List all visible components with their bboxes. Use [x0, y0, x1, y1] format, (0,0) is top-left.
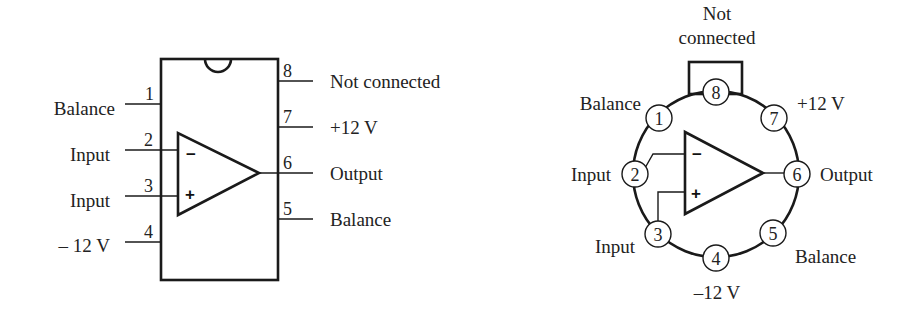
dip-pin7-number: 7 — [283, 107, 292, 127]
dip-notch-icon — [205, 59, 231, 72]
can-pin8: 8 — [703, 79, 729, 105]
can-pin6-label: Output — [820, 164, 874, 185]
svg-text:2: 2 — [631, 165, 640, 185]
dip-pin7-label: +12 V — [330, 117, 378, 138]
can-pin8-label-line2: connected — [678, 27, 756, 48]
dip-pin1-number: 1 — [145, 84, 154, 104]
can-pin1: 1 — [646, 105, 672, 131]
can-pin5-label: Balance — [795, 246, 856, 267]
dip-pin3-number: 3 — [144, 176, 153, 196]
can-pin6: 6 — [784, 161, 810, 187]
can-pin7: 7 — [761, 105, 787, 131]
can-minus-sign: − — [692, 145, 702, 164]
can-pin3-label: Input — [595, 236, 636, 257]
svg-text:6: 6 — [793, 165, 802, 185]
can-pin2: 2 — [622, 161, 648, 187]
dip-pin3-label: Input — [70, 190, 111, 211]
svg-text:1: 1 — [655, 109, 664, 129]
can-pin2-wire — [645, 154, 685, 168]
can-pin3: 3 — [645, 221, 671, 247]
dip-pin5-label: Balance — [330, 209, 391, 230]
dip-pin8-number: 8 — [283, 61, 292, 81]
can-pin5: 5 — [760, 220, 786, 246]
can-pin2-label: Input — [571, 164, 612, 185]
dip-pin2-label: Input — [70, 144, 111, 165]
can-pin4: 4 — [703, 245, 729, 271]
dip-pin2-number: 2 — [144, 130, 153, 150]
dip-pin6-number: 6 — [283, 153, 292, 173]
can-pin8-label-line1: Not — [703, 3, 732, 24]
can-pin7-label: +12 V — [797, 93, 845, 114]
svg-text:5: 5 — [769, 224, 778, 244]
can-pin4-label: –12 V — [693, 282, 741, 303]
dip-minus-sign: − — [186, 145, 196, 164]
dip-pin1-label: Balance — [54, 98, 115, 119]
can-plus-sign: + — [691, 184, 701, 203]
svg-text:3: 3 — [654, 225, 663, 245]
can-pin3-wire — [658, 192, 685, 222]
svg-text:7: 7 — [770, 109, 779, 129]
can-package: − + 8 1 7 2 6 3 — [571, 3, 874, 303]
dip-package: − + 1 2 3 4 5 6 7 8 Balance Input Input … — [54, 59, 441, 280]
dip-pin8-label: Not connected — [330, 71, 441, 92]
dip-plus-sign: + — [185, 185, 195, 204]
dip-pin5-number: 5 — [283, 199, 292, 219]
op-amp-pinout-diagram: − + 1 2 3 4 5 6 7 8 Balance Input Input … — [0, 0, 916, 317]
svg-text:4: 4 — [712, 249, 721, 269]
dip-pin4-number: 4 — [144, 222, 153, 242]
dip-pin4-label: – 12 V — [58, 235, 111, 256]
can-pin1-label: Balance — [580, 93, 641, 114]
svg-text:8: 8 — [712, 83, 721, 103]
dip-pin6-label: Output — [330, 163, 384, 184]
